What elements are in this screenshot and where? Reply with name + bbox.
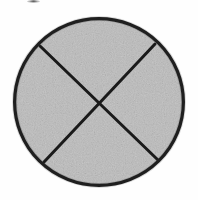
figure-canvas xyxy=(0,0,198,200)
divided-circle-figure xyxy=(0,0,198,200)
